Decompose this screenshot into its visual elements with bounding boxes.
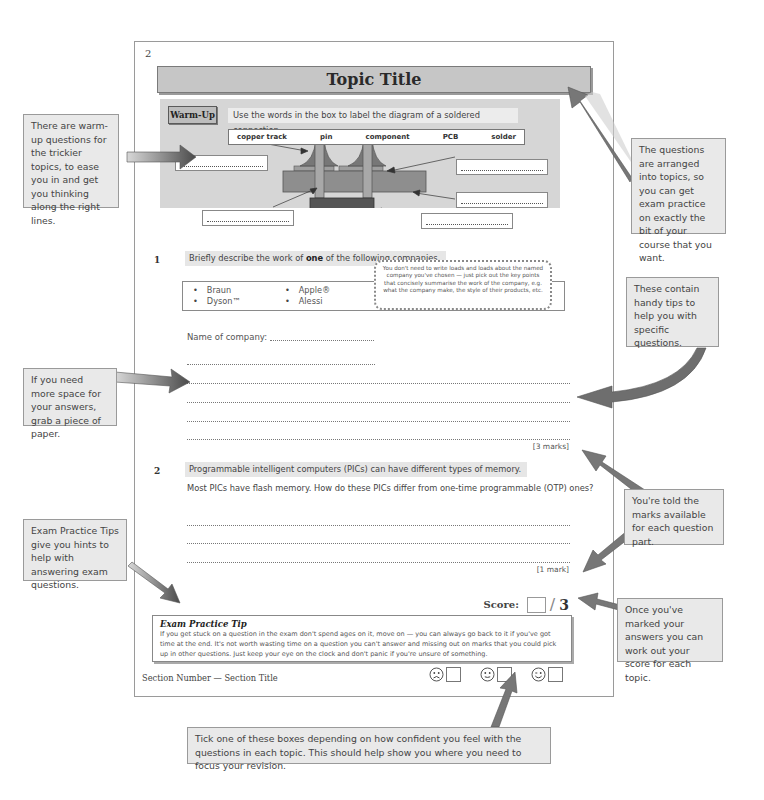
confidence-sad[interactable] — [429, 667, 461, 682]
word-copper-track: copper track — [237, 133, 287, 141]
warmup-panel: Warm-Up Use the words in the box to labe… — [160, 99, 560, 208]
question-tip-cloud: You don't need to write loads and loads … — [374, 260, 552, 310]
confidence-tick-box[interactable] — [446, 667, 461, 682]
score-label: Score: — [484, 599, 519, 610]
score-area: Score: / 3 — [484, 595, 569, 614]
note-confidence: Tick one of these boxes depending on how… — [187, 727, 551, 764]
word-solder: solder — [491, 133, 516, 141]
question-2-number: 2 — [154, 466, 160, 476]
company-column: Apple® Alessi — [285, 285, 377, 310]
confidence-happy[interactable] — [531, 667, 563, 682]
topic-title: Topic Title — [327, 70, 422, 89]
company-dyson: Dyson™ — [193, 296, 285, 307]
company-name-label: Name of company: — [187, 332, 267, 342]
answer-line[interactable] — [187, 562, 570, 563]
confidence-tick-box[interactable] — [548, 667, 563, 682]
company-column: Braun Dyson™ — [193, 285, 285, 310]
company-braun: Braun — [193, 285, 285, 296]
warmup-badge: Warm-Up — [168, 106, 217, 124]
warmup-instruction: Use the words in the box to label the di… — [228, 108, 518, 123]
score-total: 3 — [559, 597, 569, 613]
exam-practice-tip: Exam Practice Tip If you get stuck on a … — [152, 615, 572, 662]
answer-line[interactable] — [187, 439, 570, 440]
page-number: 2 — [145, 48, 151, 59]
company-apple: Apple® — [285, 285, 377, 296]
note-space: If you need more space for your answers,… — [23, 368, 117, 426]
question-2-prompt: Programmable intelligent computers (PICs… — [185, 462, 527, 477]
exam-tip-title: Exam Practice Tip — [160, 619, 564, 629]
footer-section-title: Section Number — Section Title — [142, 673, 278, 683]
neutral-face-icon — [480, 667, 495, 682]
page-frame: 2 Topic Title — [134, 41, 614, 697]
note-marks: You're told the marks available for each… — [624, 489, 724, 545]
happy-face-icon — [531, 667, 546, 682]
exam-tip-body: If you get stuck on a question in the ex… — [160, 629, 564, 659]
word-component: component — [365, 133, 409, 141]
word-pin: pin — [320, 133, 332, 141]
label-field-component[interactable] — [421, 213, 513, 229]
answer-line[interactable] — [187, 383, 570, 384]
label-field-pin[interactable] — [202, 210, 294, 226]
topic-title-bar: Topic Title — [157, 66, 591, 93]
company-name-answer-line[interactable] — [270, 340, 374, 341]
label-field-copper-track[interactable] — [456, 159, 548, 175]
note-score: Once you've marked your answers you can … — [617, 598, 723, 662]
note-warmup: There are warm-up questions for the tric… — [23, 114, 119, 208]
confidence-tick-box[interactable] — [497, 667, 512, 682]
word-bank: copper track pin component PCB solder — [228, 129, 525, 145]
question-1-marks: [3 marks] — [533, 442, 569, 451]
question-2-subprompt: Most PICs have flash memory. How do thes… — [187, 483, 594, 493]
question-2-marks: [1 mark] — [537, 565, 569, 574]
answer-line[interactable] — [187, 421, 570, 422]
word-pcb: PCB — [443, 133, 459, 141]
score-input-box[interactable] — [527, 597, 546, 613]
label-field-solder[interactable] — [175, 155, 268, 171]
label-field-pcb[interactable] — [456, 192, 548, 208]
note-tips: These contain handy tips to help you wit… — [626, 277, 719, 347]
question-1-number: 1 — [154, 255, 160, 265]
answer-line[interactable] — [187, 364, 375, 365]
answer-line[interactable] — [187, 402, 570, 403]
note-topics: The questions are arranged into topics, … — [631, 138, 726, 234]
confidence-neutral[interactable] — [480, 667, 512, 682]
answer-line[interactable] — [187, 543, 570, 544]
sad-face-icon — [429, 667, 444, 682]
score-slash: / — [550, 595, 555, 614]
company-alessi: Alessi — [285, 296, 377, 307]
answer-line[interactable] — [187, 525, 570, 526]
note-exam-tips: Exam Practice Tips give you hints to hel… — [23, 519, 127, 581]
